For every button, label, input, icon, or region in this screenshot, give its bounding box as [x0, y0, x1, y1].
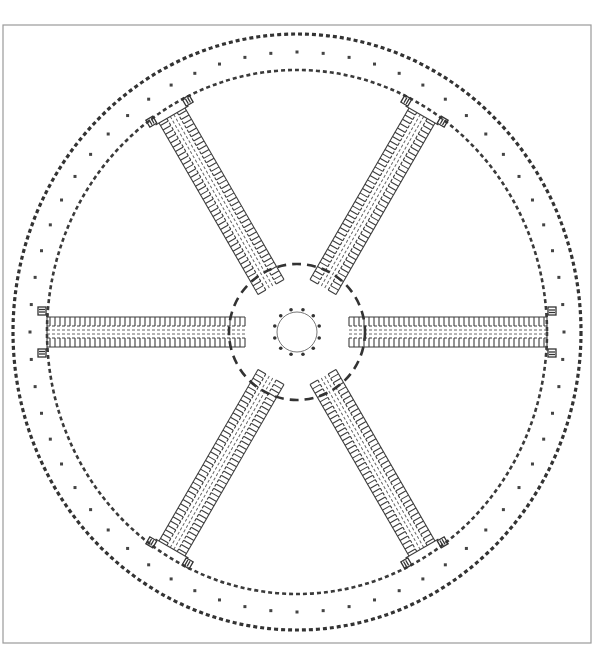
cell-partition [325, 406, 333, 411]
cell-partition [276, 380, 284, 385]
cell-partition [191, 173, 199, 178]
stair-step [185, 560, 188, 565]
cell-partition [206, 158, 214, 163]
cell-partition [249, 232, 257, 237]
cell-partition [378, 203, 386, 208]
cell-partition [403, 540, 411, 545]
cell-partition [274, 275, 282, 280]
cell-partition [176, 512, 184, 517]
pier [126, 547, 129, 550]
cell-partition [229, 462, 237, 467]
cell-partition [366, 434, 374, 439]
cell-partition [166, 530, 174, 535]
cell-partition [166, 130, 174, 135]
cell-partition [348, 255, 356, 259]
hall-column [289, 308, 293, 312]
cell-partition [400, 536, 408, 541]
cell-partition [251, 236, 259, 241]
cell-partition [201, 190, 209, 195]
cell-partition [204, 506, 212, 511]
cell-partition [188, 491, 196, 496]
cell-partition [233, 413, 241, 418]
cell-partition [201, 510, 209, 515]
cell-partition [313, 384, 321, 389]
cell-partition [328, 290, 336, 295]
cell-partition [330, 245, 338, 250]
hall-column [273, 324, 277, 328]
pier [518, 175, 521, 178]
cell-partition [251, 423, 259, 428]
cell-partition [171, 521, 179, 526]
cell-partition [378, 456, 386, 461]
cell-partition [216, 484, 224, 489]
cell-partition [254, 419, 262, 424]
cell-partition [226, 234, 234, 239]
corridor-line [170, 116, 269, 287]
pier [126, 114, 129, 117]
pier [348, 605, 351, 608]
cell-partition [243, 264, 251, 269]
cell-partition [231, 417, 239, 422]
cell-partition [333, 281, 341, 286]
cell-partition [348, 404, 356, 409]
wing-end-wall [406, 106, 439, 125]
cell-partition [196, 182, 204, 187]
cell-partition [341, 391, 349, 396]
cell-partition [323, 402, 331, 407]
cell-partition [211, 452, 219, 457]
cell-partition [229, 197, 237, 202]
pier [398, 72, 401, 75]
cell-partition [315, 389, 323, 394]
cell-partition [331, 374, 339, 379]
cell-partition [173, 143, 181, 148]
cell-partition [408, 508, 416, 513]
cell-partition [231, 242, 239, 247]
stair-step [185, 99, 188, 104]
cell-partition [253, 281, 261, 286]
cell-partition [395, 527, 403, 532]
pier [502, 153, 505, 156]
cell-partition [246, 268, 254, 273]
cell-partition [199, 514, 207, 519]
pier [60, 199, 63, 202]
cell-partition [368, 480, 376, 485]
cell-partition [358, 197, 366, 202]
cell-partition [353, 413, 361, 418]
cell-partition [373, 212, 381, 217]
cell-partition [418, 134, 426, 139]
cell-partition [373, 447, 381, 452]
corridor-line [325, 116, 424, 287]
cell-partition [266, 397, 274, 402]
hall-column [289, 352, 293, 356]
cell-partition [408, 151, 416, 156]
cell-partition [258, 370, 266, 375]
cell-partition [253, 378, 261, 383]
cell-partition [183, 160, 191, 165]
stair-step [151, 540, 154, 545]
cell-partition [423, 125, 431, 130]
cell-partition [370, 484, 378, 489]
cell-partition [196, 141, 204, 146]
cell-partition [214, 488, 222, 493]
cell-partition [385, 510, 393, 515]
cell-partition [360, 193, 368, 198]
cell-partition [198, 186, 206, 191]
cell-partition [216, 216, 224, 221]
cell-partition [413, 517, 421, 522]
pier [147, 98, 150, 101]
pier [531, 199, 534, 202]
cell-partition [390, 141, 398, 146]
cell-partition [363, 471, 371, 476]
cell-partition [323, 258, 331, 263]
cell-partition [246, 391, 254, 396]
cell-partition [353, 247, 361, 252]
stair-tower [182, 558, 193, 569]
cell-partition [403, 499, 411, 504]
cell-partition [421, 130, 429, 135]
cell-partition [171, 138, 179, 143]
cell-partition [209, 163, 217, 168]
cell-partition [350, 210, 358, 215]
cell-partition [239, 215, 247, 220]
pier [107, 528, 110, 531]
corridor-line [321, 114, 420, 285]
